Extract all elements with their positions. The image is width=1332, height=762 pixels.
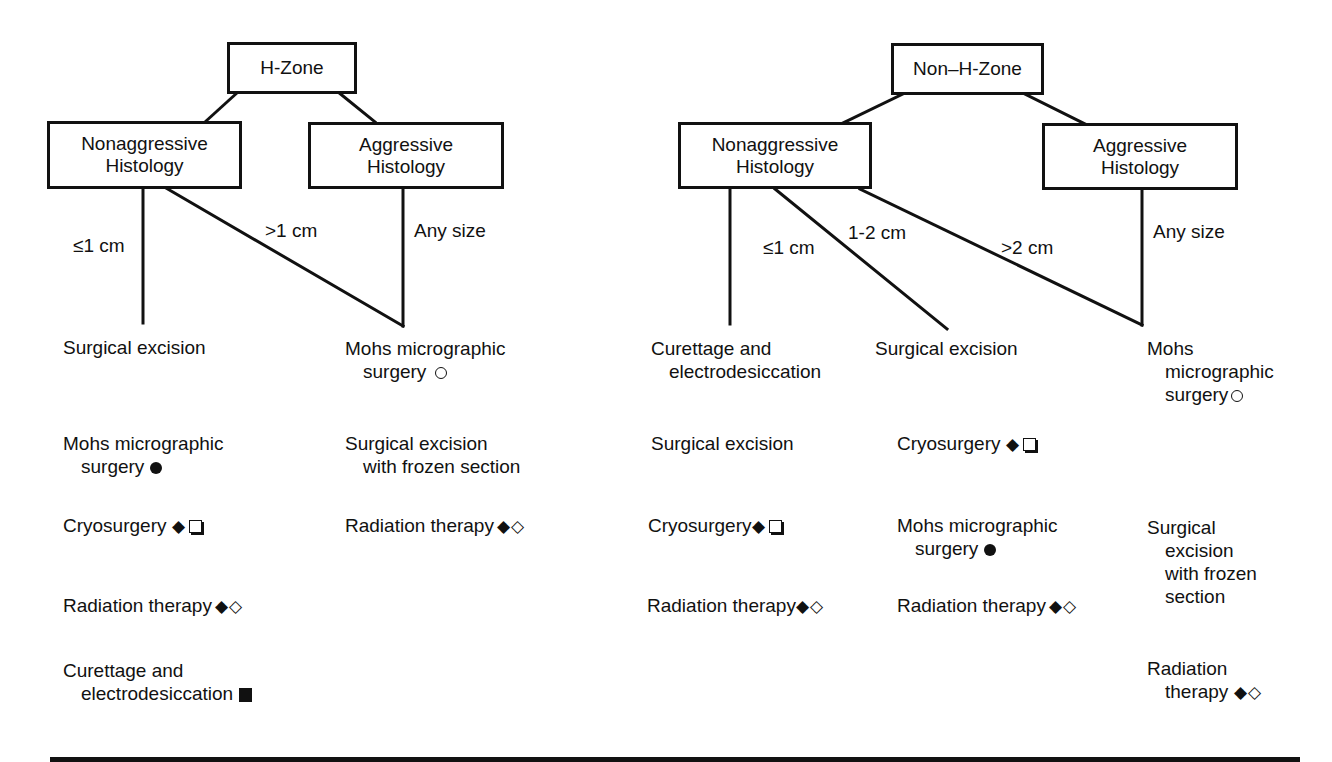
right-branch-label-large: >2 cm bbox=[1001, 237, 1053, 259]
treatment-option: Radiation therapy◆◇ bbox=[345, 514, 524, 538]
treatment-option: Radiation therapy◆◇ bbox=[63, 594, 242, 618]
h-zone-box: H-Zone bbox=[227, 42, 357, 94]
open-diamond-icon: ◇ bbox=[1063, 595, 1076, 618]
treatment-option: Curettage and electrodesiccation bbox=[651, 337, 821, 383]
connector-nonhzone-nonaggressive bbox=[843, 93, 905, 123]
treatment-option: Cryosurgery◆ bbox=[63, 514, 202, 538]
right-nonaggressive-box: Nonaggressive Histology bbox=[678, 122, 872, 189]
shadowed-square-icon bbox=[189, 520, 202, 533]
left-branch-label-aggressive: Any size bbox=[414, 220, 486, 242]
open-diamond-icon: ◇ bbox=[1248, 681, 1261, 704]
treatment-option: Curettage and electrodesiccation bbox=[63, 659, 252, 705]
aggressive-label-1: Aggressive bbox=[359, 134, 453, 156]
filled-diamond-icon: ◆ bbox=[1049, 595, 1062, 618]
open-circle-icon bbox=[435, 367, 447, 379]
filled-diamond-icon: ◆ bbox=[215, 595, 228, 618]
aggressive-label-1: Aggressive bbox=[1093, 135, 1187, 157]
treatment-option: Radiation therapy◆◇ bbox=[1147, 657, 1261, 704]
filled-diamond-icon: ◆ bbox=[752, 515, 765, 538]
connector-nonhzone-aggressive bbox=[1023, 93, 1085, 124]
filled-diamond-icon: ◆ bbox=[497, 515, 510, 538]
treatment-option: Cryosurgery◆ bbox=[897, 432, 1036, 456]
right-aggressive-box: Aggressive Histology bbox=[1042, 123, 1238, 190]
filled-circle-icon bbox=[150, 462, 162, 474]
treatment-option: Mohs micrographic surgery bbox=[345, 337, 506, 383]
filled-diamond-icon: ◆ bbox=[172, 515, 185, 538]
aggressive-label-2: Histology bbox=[1101, 157, 1179, 179]
open-diamond-icon: ◇ bbox=[229, 595, 242, 618]
shadowed-square-icon bbox=[769, 520, 782, 533]
treatment-option: Surgical excision bbox=[63, 336, 206, 359]
filled-diamond-icon: ◆ bbox=[796, 595, 809, 618]
filled-circle-icon bbox=[984, 544, 996, 556]
open-diamond-icon: ◇ bbox=[511, 515, 524, 538]
branch-left-large bbox=[166, 188, 403, 326]
filled-diamond-icon: ◆ bbox=[1234, 681, 1247, 704]
treatment-option: Surgical excision bbox=[651, 432, 794, 455]
open-diamond-icon: ◇ bbox=[810, 595, 823, 618]
treatment-option: Surgical excision with frozen section bbox=[345, 432, 520, 478]
treatment-option: Radiation therapy◆◇ bbox=[647, 594, 823, 618]
right-branch-label-aggressive: Any size bbox=[1153, 221, 1225, 243]
shadowed-square-icon bbox=[1023, 438, 1036, 451]
connector-hzone-nonaggressive bbox=[205, 92, 238, 122]
left-branch-label-small: ≤1 cm bbox=[73, 235, 125, 257]
filled-square-icon bbox=[239, 688, 252, 702]
left-branch-label-large: >1 cm bbox=[265, 220, 317, 242]
right-branch-label-small: ≤1 cm bbox=[763, 237, 815, 259]
aggressive-label-2: Histology bbox=[367, 156, 445, 178]
h-zone-label: H-Zone bbox=[260, 57, 323, 79]
connector-hzone-aggressive bbox=[338, 92, 375, 122]
nonaggressive-label-2: Histology bbox=[736, 156, 814, 178]
treatment-option: Mohs micrographic surgery bbox=[1147, 337, 1274, 406]
nonaggressive-label-1: Nonaggressive bbox=[81, 133, 208, 155]
open-circle-icon bbox=[1231, 390, 1243, 402]
right-branch-label-medium: 1-2 cm bbox=[848, 222, 906, 244]
treatment-option: Mohs micrographic surgery bbox=[897, 514, 1058, 560]
filled-diamond-icon: ◆ bbox=[1006, 433, 1019, 456]
treatment-option: Radiation therapy◆◇ bbox=[897, 594, 1076, 618]
treatment-option: Mohs micrographic surgery bbox=[63, 432, 224, 478]
non-h-zone-box: Non–H-Zone bbox=[891, 43, 1044, 95]
treatment-option: Surgical excision with frozen section bbox=[1147, 516, 1257, 608]
treatment-option: Surgical excision bbox=[875, 337, 1018, 360]
non-h-zone-label: Non–H-Zone bbox=[913, 58, 1022, 80]
bottom-rule bbox=[50, 757, 1300, 762]
nonaggressive-label-1: Nonaggressive bbox=[712, 134, 839, 156]
left-aggressive-box: Aggressive Histology bbox=[308, 122, 504, 189]
branch-right-medium bbox=[775, 189, 947, 329]
left-nonaggressive-box: Nonaggressive Histology bbox=[47, 121, 242, 189]
treatment-option: Cryosurgery◆ bbox=[648, 514, 782, 538]
nonaggressive-label-2: Histology bbox=[105, 155, 183, 177]
